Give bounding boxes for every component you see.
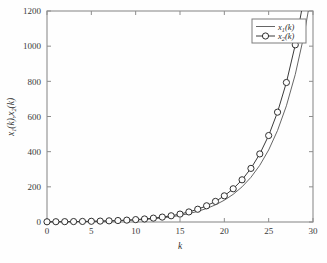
data-point-marker [195,206,201,212]
data-point-marker [168,213,174,219]
data-point-marker [186,209,192,215]
data-point-marker [248,165,254,171]
x-tick-label: 20 [220,226,230,236]
data-point-marker [274,109,280,115]
x-axis-ticks: 051015202530 [45,11,318,236]
x-tick-label: 15 [176,226,186,236]
data-point-marker [230,186,236,192]
data-point-marker [124,217,130,223]
x-tick-label: 10 [131,226,141,236]
data-point-marker [283,79,289,85]
data-point-marker [106,218,112,224]
y-tick-label: 400 [28,147,42,157]
data-point-marker [88,218,94,224]
data-point-marker [239,177,245,183]
data-point-marker [204,203,210,209]
figure-canvas: 020040060080010001200 051015202530 x1(k)… [0,0,327,263]
data-point-marker [266,132,272,138]
data-point-marker [141,216,147,222]
y-tick-label: 600 [28,112,42,122]
data-point-marker [177,211,183,217]
x-tick-label: 30 [309,226,319,236]
data-point-marker [159,214,165,220]
data-point-marker [150,215,156,221]
y-tick-label: 1200 [23,6,42,16]
y-axis-title: x1(k),x2(k) [6,98,17,137]
x-tick-label: 5 [89,226,94,236]
legend-sample-marker-x2 [262,33,268,39]
y-tick-label: 1000 [23,41,42,51]
data-point-marker [53,219,59,225]
data-point-marker [44,219,50,225]
data-point-marker [257,151,263,157]
y-tick-label: 0 [37,217,42,227]
x-tick-label: 25 [264,226,274,236]
data-point-marker [62,219,68,225]
legend: x1(k) x2(k) [252,19,306,43]
data-point-marker [79,218,85,224]
data-point-marker [115,217,121,223]
x-tick-label: 0 [45,226,50,236]
data-point-marker [212,198,218,204]
data-point-marker [133,217,139,223]
data-point-marker [221,193,227,199]
line-chart: 020040060080010001200 051015202530 x1(k)… [0,0,327,263]
data-point-marker [97,218,103,224]
data-point-marker [71,218,77,224]
legend-label-x2: x2(k) [277,31,294,42]
x-axis-title: k [178,241,183,251]
y-tick-label: 800 [28,77,42,87]
y-tick-label: 200 [28,182,42,192]
series-x2-markers [44,42,298,225]
